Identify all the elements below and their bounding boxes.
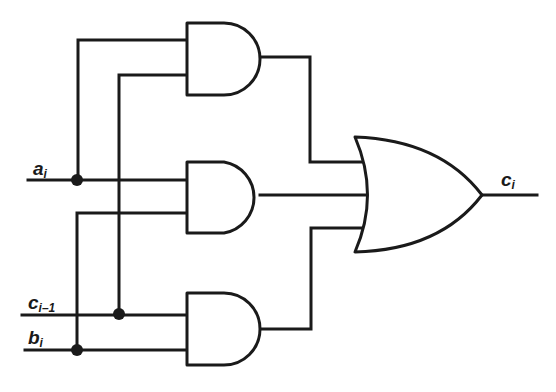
and-gate-2	[187, 162, 254, 233]
branch-wire-b-to-and2	[77, 213, 187, 350]
label-input-a: ai	[33, 158, 48, 181]
branch-wire-cin-to-and1	[119, 75, 187, 315]
circuit-diagram: ai ci–1 bi ci	[0, 0, 556, 392]
label-output-c: ci	[501, 169, 516, 192]
or-gate	[355, 137, 482, 252]
and-gate-1	[187, 23, 260, 95]
junction-dot-a	[71, 174, 83, 186]
and-gate-3	[187, 293, 260, 365]
label-input-c-prev: ci–1	[28, 292, 56, 315]
label-input-b: bi	[28, 327, 44, 350]
junction-dot-cin	[113, 308, 125, 320]
branch-wire-a-to-and1	[78, 40, 187, 180]
wire-and3-to-or	[260, 228, 368, 329]
junction-dot-b	[71, 344, 83, 356]
wire-and1-to-or	[260, 57, 368, 162]
